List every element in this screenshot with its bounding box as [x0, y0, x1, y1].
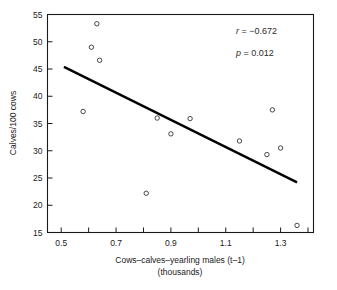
y-tick-label: 20: [33, 200, 43, 210]
data-point: [295, 223, 299, 227]
y-tick-label: 15: [33, 228, 43, 238]
y-axis-ticks: [48, 15, 53, 233]
y-tick-label: 30: [33, 146, 43, 156]
y-tick-label: 40: [33, 91, 43, 101]
x-axis-tick-labels: 0.50.70.91.11.3: [55, 238, 286, 248]
y-axis-title: Calves/100 cows: [8, 91, 18, 155]
data-point: [265, 152, 269, 156]
y-tick-label: 55: [33, 10, 43, 20]
y-axis-tick-labels: 152025303540455055: [33, 10, 43, 238]
data-point: [95, 22, 99, 26]
plot-canvas: 0.50.70.91.11.3 152025303540455055 r = −…: [0, 0, 337, 290]
data-point: [89, 45, 93, 49]
y-tick-label: 25: [33, 173, 43, 183]
data-point: [155, 116, 159, 120]
data-point: [278, 146, 282, 150]
data-point: [169, 132, 173, 136]
x-tick-label: 0.9: [165, 238, 177, 248]
x-axis-title: Cows–calves–yearling males (t–1): [115, 255, 245, 265]
regression-line-segment: [64, 67, 297, 183]
data-point: [81, 109, 85, 113]
x-axis-subtitle: (thousands): [158, 267, 203, 277]
x-tick-label: 0.5: [55, 238, 67, 248]
x-axis-ticks: [61, 228, 308, 233]
data-point: [237, 139, 241, 143]
x-tick-label: 1.1: [220, 238, 232, 248]
y-tick-label: 45: [33, 64, 43, 74]
correlation-annotation: r = −0.672: [236, 26, 277, 36]
data-point: [188, 116, 192, 120]
regression-line: [64, 67, 297, 183]
x-tick-label: 1.3: [275, 238, 287, 248]
data-point: [270, 108, 274, 112]
p-value-annotation: p = 0.012: [235, 48, 274, 58]
y-tick-label: 50: [33, 37, 43, 47]
data-point: [144, 191, 148, 195]
scatter-plot-figure: 0.50.70.91.11.3 152025303540455055 r = −…: [0, 0, 337, 290]
data-point: [97, 58, 101, 62]
y-tick-label: 35: [33, 119, 43, 129]
x-tick-label: 0.7: [110, 238, 122, 248]
